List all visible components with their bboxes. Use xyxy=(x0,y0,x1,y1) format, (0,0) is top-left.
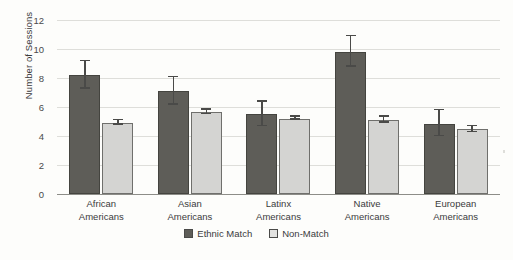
bar-non-match[interactable] xyxy=(457,129,488,194)
bar-slot xyxy=(424,20,455,194)
bar-slot xyxy=(191,20,222,194)
y-tick-6: 6 xyxy=(0,102,44,113)
x-label-line: Native xyxy=(323,198,412,211)
error-bar xyxy=(350,35,351,67)
x-label-line: Latinx xyxy=(234,198,323,211)
bar-non-match[interactable] xyxy=(368,120,399,194)
x-label-3: NativeAmericans xyxy=(323,198,412,223)
match-swatch xyxy=(184,229,193,238)
error-bar xyxy=(383,115,384,122)
x-label-line: African xyxy=(57,198,146,211)
x-label-line: Americans xyxy=(234,211,323,224)
legend-item-ethnic-match[interactable]: Ethnic Match xyxy=(184,228,252,239)
x-label-line: Americans xyxy=(323,211,412,224)
bar-slot xyxy=(246,20,277,194)
bar-slot xyxy=(368,20,399,194)
error-bar xyxy=(261,100,262,126)
bar-group xyxy=(234,20,323,194)
bar-non-match[interactable] xyxy=(279,119,310,194)
y-tick-8: 8 xyxy=(0,73,44,84)
x-label-line: Americans xyxy=(146,211,235,224)
x-axis-category-labels: AfricanAmericansAsianAmericansLatinxAmer… xyxy=(57,198,500,223)
x-label-2: LatinxAmericans xyxy=(234,198,323,223)
bar-ethnic-match[interactable] xyxy=(335,52,366,194)
legend-label: Ethnic Match xyxy=(197,228,252,239)
error-bar xyxy=(173,76,174,105)
bar-non-match[interactable] xyxy=(102,123,133,194)
bar-slot xyxy=(279,20,310,194)
bar-group xyxy=(57,20,146,194)
bar-slot xyxy=(457,20,488,194)
bar-slot xyxy=(102,20,133,194)
legend-item-non-match[interactable]: Non-Match xyxy=(269,228,328,239)
error-bar xyxy=(117,119,118,125)
bar-groups xyxy=(57,20,500,194)
error-bar xyxy=(294,115,295,119)
bar-ethnic-match[interactable] xyxy=(69,75,100,194)
x-label-line: Americans xyxy=(411,211,500,224)
error-bar xyxy=(471,125,472,132)
bar-ethnic-match[interactable] xyxy=(424,124,455,194)
x-label-line: European xyxy=(411,198,500,211)
plot-area xyxy=(57,20,500,194)
y-tick-10: 10 xyxy=(0,44,44,55)
legend-label: Non-Match xyxy=(282,228,328,239)
axis-baseline xyxy=(57,194,500,195)
x-label-4: EuropeanAmericans xyxy=(411,198,500,223)
bar-slot xyxy=(158,20,189,194)
x-label-1: AsianAmericans xyxy=(146,198,235,223)
scan-speck xyxy=(503,150,505,153)
bar-group xyxy=(323,20,412,194)
bar-non-match[interactable] xyxy=(191,112,222,194)
error-bar xyxy=(84,60,85,89)
y-tick-2: 2 xyxy=(0,160,44,171)
error-bar xyxy=(438,109,439,137)
nonmatch-swatch xyxy=(269,229,278,238)
error-bar xyxy=(206,108,207,114)
bar-group xyxy=(146,20,235,194)
x-label-line: Americans xyxy=(57,211,146,224)
x-label-0: AfricanAmericans xyxy=(57,198,146,223)
chart-legend: Ethnic MatchNon-Match xyxy=(0,228,513,239)
chart-figure: Number of Sessions 121086420 AfricanAmer… xyxy=(0,0,513,260)
bar-slot xyxy=(335,20,366,194)
y-tick-0: 0 xyxy=(0,189,44,200)
bar-ethnic-match[interactable] xyxy=(158,91,189,194)
bar-ethnic-match[interactable] xyxy=(246,114,277,194)
bar-group xyxy=(411,20,500,194)
bar-slot xyxy=(69,20,100,194)
y-tick-12: 12 xyxy=(0,15,44,26)
y-axis-tick-labels: 121086420 xyxy=(0,20,52,194)
y-tick-4: 4 xyxy=(0,131,44,142)
x-label-line: Asian xyxy=(146,198,235,211)
